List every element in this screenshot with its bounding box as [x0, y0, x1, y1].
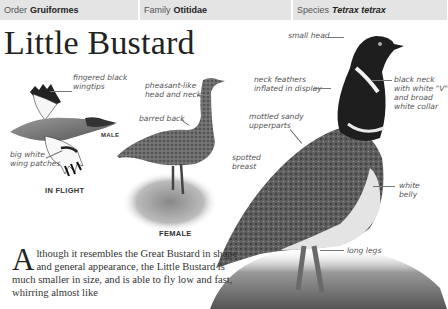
family-label: Family: [144, 5, 171, 15]
callout-leader: [50, 91, 72, 92]
callout-leader: [373, 186, 395, 187]
callout-pheasant-like-head: pheasant-like head and neck: [145, 81, 201, 99]
callout-long-legs: long legs: [347, 246, 381, 255]
female-label: FEMALE: [159, 229, 192, 238]
description-text: lthough it resembles the Great Bustard i…: [12, 248, 237, 298]
callout-leader: [313, 88, 331, 89]
callout-white-wing-patches: big white wing patches: [10, 150, 60, 168]
description-paragraph: Although it resembles the Great Bustard …: [12, 247, 242, 299]
callout-mottled-upperparts: mottled sandy upperparts: [249, 112, 304, 130]
drop-cap: A: [12, 248, 34, 272]
callout-neck-feathers: neck feathers inflated in display: [254, 75, 322, 93]
species-cell: Species Tetrax tetrax: [293, 0, 447, 20]
callout-leader: [372, 80, 392, 81]
family-cell: Family Otitidae: [140, 0, 293, 20]
callout-barred-back: barred back: [139, 114, 185, 123]
callout-leader: [320, 250, 344, 251]
taxonomy-header: Order Gruiformes Family Otitidae Species…: [0, 0, 447, 21]
page-title: Little Bustard: [4, 24, 195, 62]
family-value: Otitidae: [174, 5, 208, 15]
order-label: Order: [4, 5, 27, 15]
species-value: Tetrax tetrax: [332, 5, 386, 15]
callout-small-head: small head: [288, 31, 330, 40]
species-label: Species: [297, 5, 329, 15]
order-value: Gruiformes: [30, 5, 79, 15]
callout-black-neck: black neck with white "V" and broad whit…: [394, 75, 448, 111]
callout-white-belly: white belly: [399, 181, 420, 199]
order-cell: Order Gruiformes: [0, 0, 140, 20]
in-flight-label: IN FLIGHT: [45, 186, 84, 195]
callout-leader: [328, 37, 344, 38]
